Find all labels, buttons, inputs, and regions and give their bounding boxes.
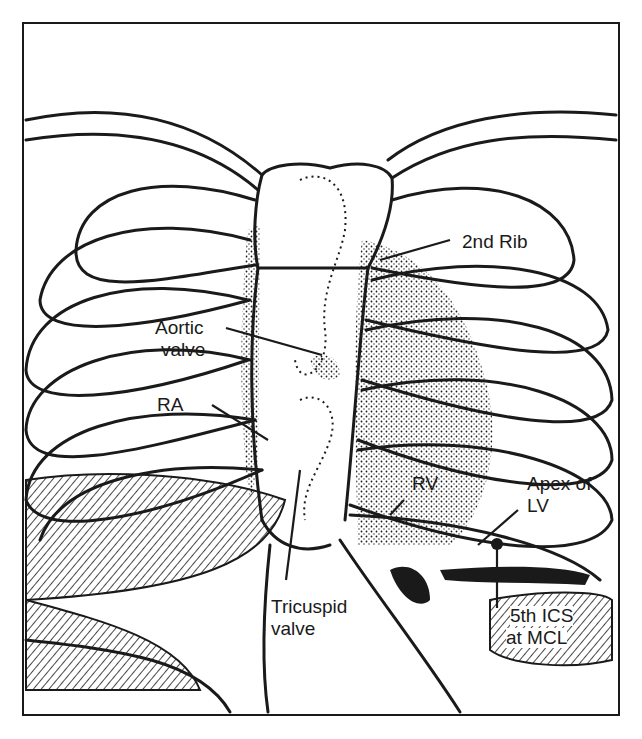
- label-apex-line1: Apex of: [527, 474, 591, 494]
- label-apex-line2: LV: [527, 496, 549, 516]
- label-aortic-valve-line2: valve: [161, 340, 205, 360]
- liver-region: [26, 474, 285, 600]
- apex-point-marker: [491, 538, 503, 550]
- label-tricuspid-line1: Tricuspid: [271, 597, 347, 617]
- label-aortic-valve-line1: Aortic: [155, 318, 204, 338]
- label-right-ventricle: RV: [412, 474, 438, 494]
- label-right-atrium: RA: [157, 395, 183, 415]
- label-ics-line1: 5th ICS: [510, 606, 573, 626]
- label-ics-line2: at MCL: [506, 628, 567, 648]
- label-tricuspid-line2: valve: [271, 619, 315, 639]
- right-clavicle: [26, 112, 262, 175]
- label-second-rib: 2nd Rib: [462, 232, 528, 252]
- tricuspid-leader: [286, 470, 300, 580]
- aortic-valve-marker: [310, 355, 340, 380]
- aortic-valve-leader: [226, 328, 322, 355]
- ra-leader: [212, 405, 268, 440]
